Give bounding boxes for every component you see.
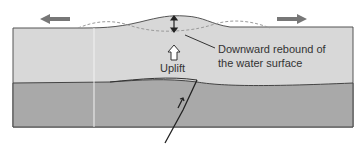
- crust: [13, 80, 353, 127]
- arrow-left-icon: [40, 14, 70, 24]
- uplift-label: Uplift: [160, 62, 185, 75]
- rebound-label-line2: the water surface: [218, 57, 302, 70]
- arrow-right-icon: [277, 14, 307, 24]
- rebound-label-line1: Downward rebound of: [218, 43, 326, 56]
